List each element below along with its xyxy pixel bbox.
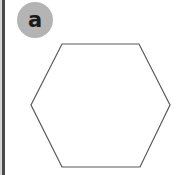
hexagon-diagram	[0, 0, 182, 175]
figure-panel: a	[0, 0, 182, 175]
hexagon-shape	[31, 44, 170, 167]
